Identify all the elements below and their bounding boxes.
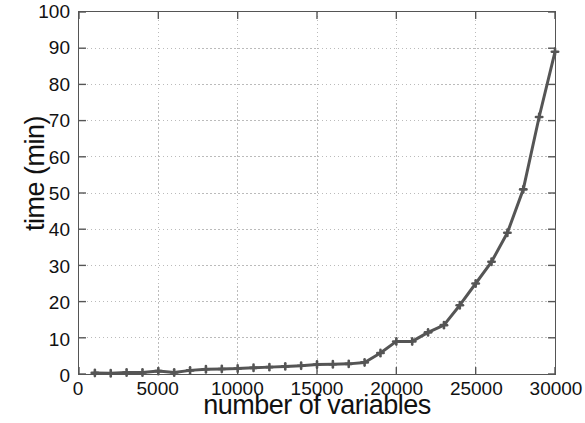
y-tick-label: 80	[10, 75, 70, 94]
x-tick-label: 20000	[352, 379, 442, 398]
y-tick-label: 90	[10, 38, 70, 57]
x-tick-label: 10000	[192, 379, 282, 398]
y-tick-label: 40	[10, 220, 70, 239]
x-tick-label: 5000	[113, 379, 203, 398]
x-tick-label: 25000	[431, 379, 521, 398]
y-tick-label: 20	[10, 293, 70, 312]
plot-area	[78, 11, 556, 375]
x-tick-label: 30000	[511, 379, 585, 398]
y-tick-label: 70	[10, 111, 70, 130]
data-series-line	[79, 12, 555, 374]
y-tick-label: 10	[10, 330, 70, 349]
y-tick-label: 50	[10, 184, 70, 203]
y-tick-label: 100	[10, 2, 70, 21]
y-tick-label: 30	[10, 257, 70, 276]
x-tick-label: 0	[33, 379, 123, 398]
x-tick-label: 15000	[272, 379, 362, 398]
y-tick-label: 60	[10, 148, 70, 167]
figure-chart: time (min) number of variables 010203040…	[0, 0, 585, 423]
